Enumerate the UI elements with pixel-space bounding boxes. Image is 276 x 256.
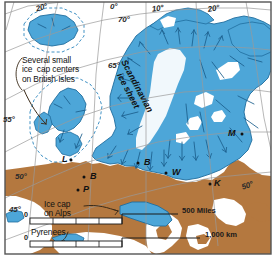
map-canvas bbox=[0, 0, 276, 256]
ice-sheet-map: 20° 0° 10° 20° 70° 65° 55° 50° 45° 50° S… bbox=[0, 0, 276, 256]
